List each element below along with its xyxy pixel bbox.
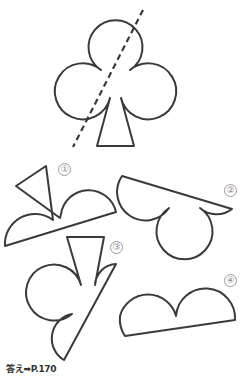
option-1-label: ① [58, 163, 71, 176]
puzzle-figure [0, 0, 245, 376]
option-4-label: ④ [224, 274, 237, 287]
option-3-label: ③ [110, 241, 123, 254]
option-2-label: ② [224, 184, 237, 197]
club-shape [55, 20, 176, 146]
option-4-shape[interactable] [120, 288, 235, 336]
option-1-shape[interactable] [5, 166, 116, 246]
option-3-shape[interactable] [26, 237, 116, 360]
option-2-shape[interactable] [117, 176, 232, 259]
answer-reference: 答え➡P.170 [6, 362, 56, 375]
dashed-cut-line [73, 10, 143, 147]
